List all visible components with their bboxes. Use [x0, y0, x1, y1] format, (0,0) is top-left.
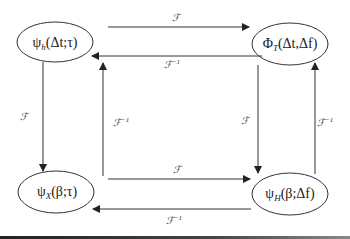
node-bottom-left-label: ψX(β;τ): [37, 184, 78, 201]
node-bottom-right-label: ψH(β;Δf): [265, 186, 315, 203]
transform-diagram: ψh(Δt;τ) ΦT(Δt,Δf) ψX(β;τ) ψH(β;Δf) ℱ ℱ−…: [0, 0, 350, 239]
label-right-forward: ℱ: [241, 115, 251, 126]
node-top-left-label: ψh(Δt;τ): [33, 35, 78, 52]
label-bottom-inverse: ℱ−1: [166, 214, 182, 226]
label-right-inverse: ℱ−1: [317, 116, 333, 128]
label-top-inverse: ℱ−1: [164, 58, 180, 70]
label-top-forward: ℱ: [172, 12, 182, 23]
label-left-inverse: ℱ−1: [113, 116, 129, 128]
node-top-right-label: ΦT(Δt,Δf): [263, 36, 318, 53]
label-left-forward: ℱ: [20, 111, 30, 122]
label-bottom-forward: ℱ: [173, 164, 183, 175]
bottom-border: [0, 236, 350, 239]
